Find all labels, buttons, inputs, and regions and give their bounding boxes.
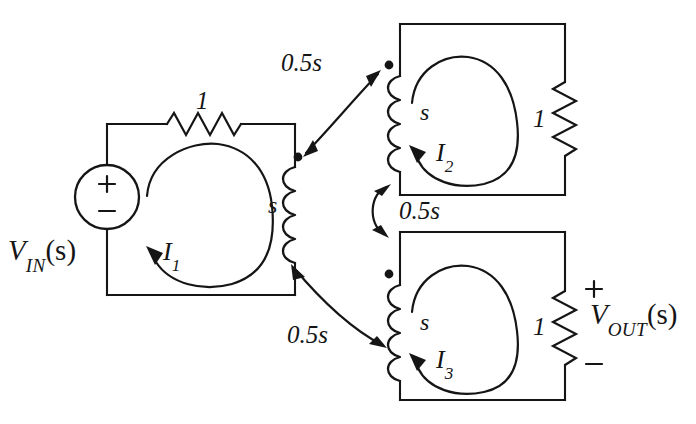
mesh-current-1-subscript: 1 xyxy=(172,256,181,275)
output-voltage-argument: (s) xyxy=(647,298,678,330)
label-resistor-input: 1 xyxy=(196,88,209,113)
mesh-current-3-subscript: 3 xyxy=(445,364,454,383)
circuit-diagram-canvas: 1 s s s 1 1 0.5s 0.5s 0.5s I1 I2 I3 VIN(… xyxy=(0,0,696,424)
mesh-current-2-symbol: I xyxy=(436,138,445,167)
coupling-arrow-primary-top xyxy=(303,70,381,157)
inductor-secondary-top-coil xyxy=(388,76,400,172)
label-resistor-bottom: 1 xyxy=(533,314,546,339)
dot-marker-secondary-top xyxy=(385,61,394,70)
output-plus-sign xyxy=(586,281,602,297)
mesh-current-arrowhead-1 xyxy=(146,246,163,265)
coupling-arrow-top-bottom xyxy=(372,184,391,238)
output-voltage-symbol: V xyxy=(590,298,608,330)
label-coupling-top-bottom: 0.5s xyxy=(399,198,440,223)
inductor-primary-coil xyxy=(283,167,295,263)
label-inductor-primary: s xyxy=(268,193,277,217)
coupling-arc-primary-top xyxy=(306,74,378,153)
resistor-top-zigzag xyxy=(553,82,576,156)
source-plus-sign xyxy=(99,176,115,192)
circuit-schematic-svg xyxy=(0,0,696,424)
label-input-voltage: VIN(s) xyxy=(8,236,76,270)
mesh-current-2-subscript: 2 xyxy=(445,157,454,176)
dot-marker-secondary-bottom xyxy=(385,270,394,279)
label-mesh-current-3: I3 xyxy=(436,347,454,377)
output-voltage-subscript: OUT xyxy=(608,319,647,340)
input-voltage-argument: (s) xyxy=(45,234,76,266)
input-voltage-symbol: V xyxy=(8,234,26,266)
label-inductor-secondary-top: s xyxy=(420,100,429,124)
voltage-source-circle xyxy=(75,165,139,229)
mesh-current-3-symbol: I xyxy=(436,345,445,374)
label-mesh-current-1: I1 xyxy=(163,239,181,269)
mesh-current-1-symbol: I xyxy=(163,237,172,266)
resistor-input-zigzag xyxy=(167,113,241,135)
inductor-secondary-bottom-coil xyxy=(388,285,400,381)
resistor-bottom-zigzag xyxy=(553,291,576,365)
label-output-voltage: VOUT(s) xyxy=(590,300,678,334)
label-resistor-top: 1 xyxy=(533,106,546,131)
coupling-arrowhead-down-2 xyxy=(372,225,389,238)
mesh-current-arrowhead-2 xyxy=(409,145,426,163)
mesh-2-group xyxy=(385,24,576,195)
label-inductor-secondary-bottom: s xyxy=(420,310,429,334)
label-coupling-primary-top: 0.5s xyxy=(281,50,322,75)
mesh-current-arrowhead-3 xyxy=(409,353,426,371)
mesh-3-group xyxy=(385,232,602,400)
dot-marker-primary xyxy=(294,153,303,162)
input-voltage-subscript: IN xyxy=(26,255,46,276)
label-coupling-primary-bottom: 0.5s xyxy=(287,322,328,347)
label-mesh-current-2: I2 xyxy=(436,140,454,170)
